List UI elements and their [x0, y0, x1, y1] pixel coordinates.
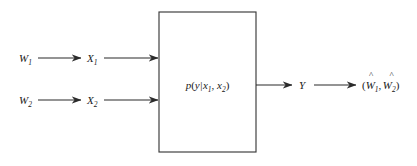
input-message-sub-2: 2	[28, 100, 32, 109]
input-codeword-label-1: X1	[86, 52, 97, 67]
channel-output-label: Y	[299, 79, 307, 91]
multiple-access-channel-diagram: p(y|x1, x2) W1 X1 W2 X2 Y (W1,W2) ^ ^	[0, 0, 417, 166]
hat-accent-icon-2: ^	[389, 70, 394, 80]
channel-label-close-paren: )	[226, 79, 230, 92]
input-codeword-sub-1: 1	[94, 58, 98, 67]
input-message-label-2: W2	[19, 94, 32, 109]
input-codeword-label-2: X2	[86, 94, 98, 109]
input-message-label-1: W1	[19, 52, 32, 67]
decoded-comma: ,	[379, 79, 382, 91]
input-codeword-sub-2: 2	[94, 100, 98, 109]
input-message-sub-1: 1	[28, 58, 32, 67]
channel-output-symbol: Y	[299, 79, 307, 91]
channel-label-y: y	[194, 79, 200, 91]
diagram-canvas: p(y|x1, x2) W1 X1 W2 X2 Y (W1,W2) ^ ^	[0, 0, 417, 166]
decoded-close-paren: )	[396, 79, 400, 92]
decoded-messages-label: (W1,W2)	[362, 79, 400, 94]
